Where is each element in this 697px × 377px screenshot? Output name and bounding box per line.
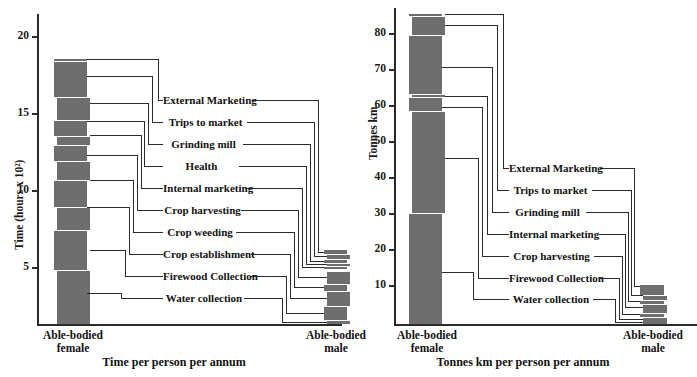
leader-male-tonnes-2-c bbox=[628, 301, 640, 302]
y-axis-line-time bbox=[37, 14, 39, 325]
leader-female-tonnes-6-b bbox=[473, 272, 474, 299]
y-tick-tonnes-4 bbox=[389, 177, 394, 179]
bar-seg-female-tonnes-trips-to-market bbox=[409, 35, 442, 94]
leader-male-time-0-c bbox=[318, 252, 324, 253]
leader-male-tonnes-0-a bbox=[600, 168, 634, 169]
chart-panel-time: 20 15 10 5 Time (hours x 10²) bbox=[0, 0, 348, 377]
leader-male-time-5-b bbox=[298, 210, 299, 277]
leader-male-time-1-a bbox=[247, 122, 314, 123]
leader-male-time-6-a bbox=[236, 232, 294, 233]
x-axis-line-time bbox=[37, 324, 342, 326]
key-label-tonnes-5: Firewood Collection bbox=[509, 273, 600, 284]
category-label-tonnes-male-line1: Able-bodied bbox=[623, 329, 683, 341]
key-label-time-7: Crop establishment bbox=[163, 249, 252, 260]
leader-male-tonnes-4-b bbox=[622, 256, 623, 314]
key-label-time-2: Grinding mill bbox=[163, 139, 244, 150]
leader-female-time-7-a bbox=[87, 207, 129, 208]
leader-female-time-2-a bbox=[90, 103, 148, 104]
leader-male-tonnes-6-b bbox=[615, 299, 616, 322]
leader-male-time-4-b bbox=[302, 188, 303, 267]
leader-male-tonnes-4-a bbox=[594, 256, 622, 257]
y-axis-title-tonnes: Tonnes km bbox=[367, 106, 379, 160]
leader-male-time-0-b bbox=[318, 100, 319, 252]
key-label-time-6: Crop weeding bbox=[163, 227, 237, 238]
leader-female-tonnes-3-a bbox=[445, 96, 487, 97]
leader-female-time-8-b bbox=[125, 250, 126, 276]
bar-seg-female-time-firewood-collection bbox=[54, 230, 87, 270]
leader-male-tonnes-6-c bbox=[615, 322, 643, 323]
leader-female-time-4-c bbox=[141, 188, 163, 189]
leader-male-time-2-b bbox=[310, 144, 311, 261]
leader-male-time-1-b bbox=[314, 122, 315, 256]
leader-male-time-9-a bbox=[244, 298, 282, 299]
key-label-tonnes-4: Crop harvesting bbox=[509, 251, 594, 262]
leader-male-time-3-c bbox=[306, 264, 327, 265]
leader-male-tonnes-2-b bbox=[628, 212, 629, 301]
bar-seg-male-tonnes-firewood-collection bbox=[643, 317, 667, 324]
leader-female-time-8-a bbox=[90, 250, 125, 251]
leader-male-time-3-a bbox=[239, 166, 306, 167]
leader-female-tonnes-1-a bbox=[445, 25, 497, 26]
bar-seg-female-time-internal-marketing bbox=[54, 145, 87, 161]
bar-seg-male-time-crop-establishment bbox=[327, 291, 350, 306]
leader-male-time-8-c bbox=[286, 313, 324, 314]
leader-female-time-6-c bbox=[133, 232, 163, 233]
leader-male-time-9-c bbox=[282, 322, 327, 323]
leader-male-time-3-b bbox=[306, 166, 307, 264]
leader-female-tonnes-2-c bbox=[492, 212, 509, 213]
leader-female-time-3-a bbox=[87, 121, 144, 122]
y-axis-title-time: Time (hours x 10²) bbox=[13, 160, 25, 250]
leader-male-tonnes-0-b bbox=[634, 168, 635, 286]
leader-female-time-8-c bbox=[125, 276, 163, 277]
category-label-time-female: Able-bodied female bbox=[29, 329, 117, 355]
leader-male-tonnes-2-a bbox=[586, 212, 628, 213]
key-label-tonnes-2: Grinding mill bbox=[509, 207, 586, 218]
leader-female-time-5-c bbox=[137, 210, 163, 211]
leader-male-time-9-b bbox=[282, 298, 283, 322]
key-label-time-3: Health bbox=[163, 161, 240, 172]
leader-male-time-6-c bbox=[294, 287, 324, 288]
y-tick-time-0 bbox=[32, 36, 37, 38]
leader-female-time-5-b bbox=[137, 155, 138, 210]
leader-male-tonnes-3-a bbox=[599, 234, 625, 235]
leader-male-time-4-a bbox=[245, 188, 302, 189]
leader-female-tonnes-2-b bbox=[492, 67, 493, 212]
leader-female-tonnes-3-b bbox=[487, 96, 488, 234]
bar-seg-female-tonnes-internal-marketing bbox=[409, 97, 442, 111]
leader-female-tonnes-5-c bbox=[478, 278, 509, 279]
y-tick-label-tonnes-5: 30 bbox=[363, 207, 386, 218]
key-label-tonnes-0: External Marketing bbox=[509, 163, 600, 174]
key-label-time-5: Crop harvesting bbox=[163, 205, 242, 216]
y-tick-time-2 bbox=[32, 190, 37, 192]
leader-male-time-0-a bbox=[252, 100, 318, 101]
bar-seg-male-tonnes-external-marketing bbox=[640, 285, 664, 295]
leader-female-time-9-c bbox=[121, 298, 163, 299]
bar-seg-female-tonnes-external-marketing-body bbox=[412, 16, 445, 35]
leader-female-tonnes-0-b bbox=[503, 14, 504, 168]
leader-male-tonnes-1-a bbox=[592, 190, 631, 191]
leader-male-tonnes-3-c bbox=[625, 307, 643, 308]
bar-seg-female-tonnes-crop-harvesting bbox=[412, 111, 445, 213]
leader-female-tonnes-1-c bbox=[497, 190, 509, 191]
leader-female-tonnes-3-c bbox=[487, 234, 509, 235]
leader-male-tonnes-0-c bbox=[634, 286, 640, 287]
category-label-time-female-line2: female bbox=[57, 342, 90, 354]
leader-male-time-1-c bbox=[314, 256, 327, 257]
y-axis-line-tonnes bbox=[394, 8, 396, 325]
y-tick-label-time-1: 15 bbox=[8, 107, 29, 118]
key-label-tonnes-1: Trips to market bbox=[509, 185, 592, 196]
leader-female-tonnes-4-b bbox=[482, 107, 483, 256]
bar-seg-female-time-grinding-mill bbox=[54, 120, 87, 136]
bar-seg-female-tonnes-firewood-collection bbox=[409, 213, 442, 324]
y-tick-tonnes-7 bbox=[389, 285, 394, 287]
category-label-time-male-line2: male bbox=[324, 342, 348, 354]
y-tick-label-tonnes-7: 10 bbox=[363, 279, 386, 290]
bar-seg-male-time-firewood-collection bbox=[324, 306, 347, 320]
y-tick-tonnes-6 bbox=[389, 249, 394, 251]
leader-female-time-3-b bbox=[144, 121, 145, 166]
leader-female-time-0-b bbox=[158, 59, 159, 100]
leader-male-time-5-c bbox=[298, 277, 327, 278]
chart-panel-tonnes: 80 70 60 50 40 30 20 10 Tonnes km bbox=[349, 0, 697, 377]
leader-female-time-7-b bbox=[129, 207, 130, 254]
leader-male-time-8-b bbox=[286, 276, 287, 313]
